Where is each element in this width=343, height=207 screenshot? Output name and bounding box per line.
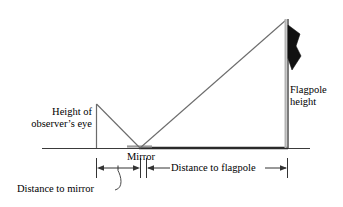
leader-line-distance-to-mirror [115,171,121,191]
label-observer-eye-height: Height of observer’s eye [31,106,92,129]
label-flagpole-height: Flagpole height [290,84,327,107]
mirror-flagpole-diagram: Height of observer’s eye Flagpole height… [0,0,343,207]
dim-arrow-right-mirror [133,165,140,171]
label-mirror: Mirror [120,151,162,163]
label-distance-to-flagpole: Distance to flagpole [171,162,256,174]
label-distance-to-mirror: Distance to mirror [17,183,94,195]
label-flagpole-height-line2: height [290,96,327,108]
ray-eye-to-mirror [97,104,141,148]
ray-mirror-to-flagpole-top [140,20,286,148]
dim-arrow-right-flagpole [280,165,287,171]
label-observer-eye-height-line2: observer’s eye [31,118,92,130]
label-observer-eye-height-line1: Height of [31,106,92,118]
dim-arrow-left-mirror [97,165,104,171]
dim-arrow-left-flagpole [147,165,154,171]
label-flagpole-height-line1: Flagpole [290,84,327,96]
flag-icon [288,25,301,70]
